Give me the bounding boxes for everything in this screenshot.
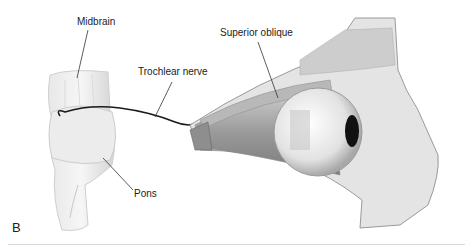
label-superior-oblique: Superior oblique xyxy=(220,27,293,38)
panel-label: B xyxy=(12,220,21,235)
label-trochlear-nerve: Trochlear nerve xyxy=(138,66,208,77)
brainstem-drawing xyxy=(48,71,115,231)
trochlear-leader xyxy=(155,82,172,117)
pons-leader xyxy=(103,158,133,190)
label-midbrain: Midbrain xyxy=(77,16,115,27)
divider xyxy=(8,244,465,245)
orbit-drawing xyxy=(190,18,438,228)
label-pons: Pons xyxy=(134,188,157,199)
